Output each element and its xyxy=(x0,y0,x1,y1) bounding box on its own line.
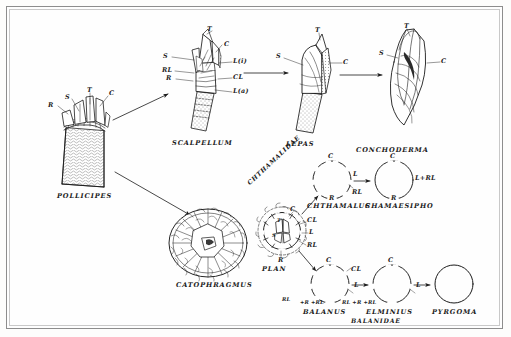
caption-elminius: ELMINIUS xyxy=(366,308,413,316)
label-plan-c: C xyxy=(290,205,295,213)
label-pollicipes-t: T xyxy=(87,86,92,94)
label-scalpellum-c: C xyxy=(224,40,229,48)
label-conchoderma-t: T xyxy=(404,22,409,30)
pyrgoma-drawing xyxy=(435,265,473,303)
label-lepas-c: C xyxy=(343,58,348,66)
scalpellum-drawing xyxy=(172,29,232,131)
label-chamaesipho-l-rl: L+RL xyxy=(415,174,436,182)
label-scalpellum-cl: CL xyxy=(233,73,243,81)
label-plan-t: T xyxy=(277,217,281,223)
label-balanus-l: L xyxy=(354,281,359,289)
conchoderma-drawing xyxy=(387,29,440,125)
arrow-pollicipes-scalpellum xyxy=(113,94,168,120)
plan-drawing xyxy=(256,203,308,258)
arrow-pollicipes-catophragmus xyxy=(115,172,190,215)
label-scalpellum-t: T xyxy=(207,25,212,33)
caption-pollicipes: POLLICIPES xyxy=(57,192,112,200)
label-chthamalus-r: R xyxy=(329,194,335,202)
catophragmus-drawing xyxy=(169,208,247,281)
label-balanus-cl: CL xyxy=(351,265,361,273)
label-chthamalus-c: C xyxy=(328,152,333,160)
label-chthamalus-l: L xyxy=(353,170,358,178)
caption-balanidae: BALANIDAE xyxy=(351,317,401,324)
caption-balanus: BALANUS xyxy=(303,308,346,316)
label-plan-cl: CL xyxy=(307,216,317,224)
label-balanus-c: C xyxy=(326,256,331,264)
label-conchoderma-c: C xyxy=(441,57,446,65)
label-pollicipes-s: S xyxy=(65,93,70,101)
label-lepas-s: S xyxy=(276,52,281,60)
caption-pyrgoma: PYRGOMA xyxy=(432,308,477,316)
label-conchoderma-s: S xyxy=(379,49,384,57)
figure-plate: R S T C POLLICIPES S RL R T C L(i) CL L(… xyxy=(0,0,511,337)
caption-chamaesipho: CHAMAESIPHO xyxy=(365,202,434,210)
lepas-drawing xyxy=(284,33,342,133)
label-plan-l: L xyxy=(309,228,314,236)
label-plan-r: R xyxy=(278,256,284,264)
pollicipes-drawing xyxy=(58,93,110,187)
label-scalpellum-rl: RL xyxy=(162,66,172,74)
label-chthamalus-rl: RL xyxy=(352,188,362,196)
caption-chthamalus: CHTHAMALUS xyxy=(307,202,371,210)
caption-catophragmus: CATOPHRAGMUS xyxy=(176,281,253,289)
label-pollicipes-c: C xyxy=(109,89,114,97)
elminius-drawing xyxy=(373,265,415,303)
label-elminius-rl-r-rl: RL +R +RL xyxy=(342,299,376,305)
caption-scalpellum: SCALPELLUM xyxy=(172,139,233,147)
balanus-drawing xyxy=(311,265,353,303)
label-plan-rl: RL xyxy=(307,241,317,249)
label-balanus-r-rl: +R +RL xyxy=(300,299,324,305)
label-elminius-l: L xyxy=(416,281,421,289)
label-scalpellum-l-outer: L(a) xyxy=(233,87,249,95)
arrow-plan-balanus xyxy=(299,251,316,271)
caption-plan: PLAN xyxy=(262,265,286,273)
label-balanus-rl: RL xyxy=(282,296,290,302)
label-plan-s: S xyxy=(272,232,276,238)
label-chamaesipho-c: C xyxy=(390,152,395,160)
diagram-canvas xyxy=(0,0,511,337)
label-lepas-t: T xyxy=(315,26,320,34)
label-elminius-c: C xyxy=(388,256,393,264)
label-scalpellum-s: S xyxy=(163,52,168,60)
label-scalpellum-r: R xyxy=(166,74,172,82)
label-scalpellum-l-inner: L(i) xyxy=(233,57,247,65)
label-pollicipes-r: R xyxy=(48,101,54,109)
label-chamaesipho-r: R xyxy=(391,194,397,202)
